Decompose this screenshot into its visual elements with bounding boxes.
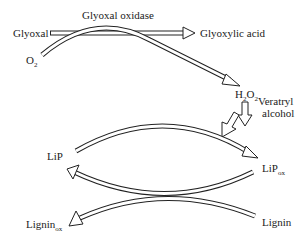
label-veratryl: Veratryl (258, 95, 293, 107)
arrow-lipox-to-lip (67, 165, 253, 194)
label-glyoxal: Glyoxal (13, 27, 48, 39)
label-lipox: LiPox (262, 162, 285, 177)
arrow-lignin-to-ligninox (69, 198, 255, 226)
label-glyoxylic-acid: Glyoxylic acid (200, 27, 266, 39)
label-glyoxal-oxidase: Glyoxal oxidase (82, 9, 154, 21)
label-lip: LiP (47, 150, 63, 162)
label-o2: O2 (26, 54, 38, 69)
arrow-veratryl-down (222, 112, 239, 137)
arrow-h2o2-down (238, 102, 252, 126)
reaction-diagram: Glyoxal oxidase Glyoxal Glyoxylic acid O… (0, 0, 303, 248)
label-alcohol: alcohol (262, 107, 294, 119)
label-lignin: Lignin (262, 216, 292, 228)
label-lignin-ox: Ligninox (26, 218, 63, 233)
label-h2o2: H2O2 (235, 88, 258, 103)
